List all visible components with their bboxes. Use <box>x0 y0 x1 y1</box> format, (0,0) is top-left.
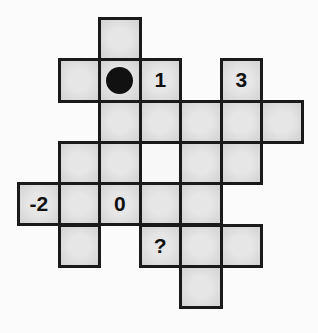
grid-cell <box>179 224 223 268</box>
grid-cell <box>58 141 102 185</box>
grid-cell <box>179 141 223 185</box>
grid-cell-number: 0 <box>98 182 142 226</box>
grid-cell <box>179 265 223 309</box>
grid-cell <box>179 182 223 226</box>
grid-cell <box>98 100 142 144</box>
grid-cell <box>220 224 264 268</box>
grid-cell <box>58 182 102 226</box>
cell-label: 3 <box>235 68 247 92</box>
grid-cell-number: -2 <box>17 182 61 226</box>
grid-cell-number: 1 <box>139 58 183 102</box>
grid-cell <box>220 100 264 144</box>
grid-cell <box>139 141 183 185</box>
grid-cell <box>179 100 223 144</box>
grid-cell-dot <box>98 58 142 102</box>
puzzle-grid: 13-20? <box>0 0 318 333</box>
grid-cell <box>98 141 142 185</box>
grid-cell <box>139 182 183 226</box>
grid-cell <box>220 141 264 185</box>
grid-cell <box>98 17 142 61</box>
cell-label: 0 <box>114 192 126 216</box>
grid-cell <box>139 100 183 144</box>
cell-label: ? <box>154 234 167 258</box>
cell-label: 1 <box>154 68 166 92</box>
grid-cell <box>260 100 304 144</box>
cell-label: -2 <box>29 192 48 216</box>
dot-icon <box>106 67 133 94</box>
grid-cell <box>58 58 102 102</box>
grid-cell <box>58 224 102 268</box>
grid-cell-number: 3 <box>220 58 264 102</box>
grid-cell-number: ? <box>139 224 183 268</box>
